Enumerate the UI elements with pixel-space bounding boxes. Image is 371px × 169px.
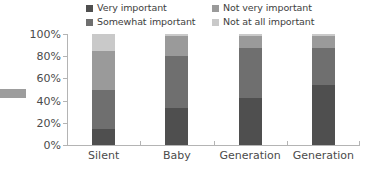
y-tick-label: 0% (44, 139, 61, 152)
stacked-bar (239, 34, 262, 145)
legend-swatch-not-very-important (212, 5, 219, 12)
chart-plot-area: 100%80%60%40%20%0% SilentBabyGenerationG… (67, 34, 360, 146)
bar-segment (92, 34, 115, 51)
y-tick-mark (63, 78, 67, 79)
x-axis-separator (287, 141, 288, 146)
x-axis-separator (140, 141, 141, 146)
bar-segment (312, 85, 335, 145)
y-tick-label: 20% (37, 116, 61, 129)
bar-segment (239, 98, 262, 145)
legend-item-not-at-all-important: Not at all important (212, 17, 362, 27)
bar-segment (165, 56, 188, 108)
x-axis-label: Generation (293, 149, 354, 162)
y-tick-mark (63, 145, 67, 146)
chart-legend: Very important Not very important Somewh… (86, 1, 362, 30)
legend-label-not-very-important: Not very important (223, 3, 312, 13)
legend-swatch-not-at-all-important (212, 19, 219, 26)
x-axis-label: Silent (88, 149, 119, 162)
bar-segment (92, 51, 115, 90)
bar-segment (165, 108, 188, 145)
legend-label-not-at-all-important: Not at all important (223, 17, 314, 27)
y-tick-label: 80% (37, 50, 61, 63)
bar-segment (239, 36, 262, 48)
legend-label-somewhat-important: Somewhat important (97, 17, 195, 27)
y-tick-mark (63, 56, 67, 57)
bar-segment (92, 90, 115, 130)
bar-segment (165, 36, 188, 56)
bar-segment (92, 129, 115, 145)
stacked-bar (165, 34, 188, 145)
legend-label-very-important: Very important (97, 3, 167, 13)
y-tick-label: 60% (37, 72, 61, 85)
decorative-edge-mark (0, 89, 26, 98)
y-tick-mark (63, 101, 67, 102)
y-tick-label: 100% (30, 28, 61, 41)
bar-segment (312, 48, 335, 85)
legend-item-not-very-important: Not very important (212, 3, 362, 13)
legend-item-very-important: Very important (86, 3, 212, 13)
legend-swatch-somewhat-important (86, 19, 93, 26)
legend-swatch-very-important (86, 5, 93, 12)
y-tick-mark (63, 123, 67, 124)
bar-segment (312, 36, 335, 48)
legend-item-somewhat-important: Somewhat important (86, 17, 212, 27)
bar-segment (239, 48, 262, 98)
y-tick-mark (63, 34, 67, 35)
y-axis-line (67, 34, 68, 146)
x-axis-separator (359, 141, 360, 146)
y-tick-label: 40% (37, 94, 61, 107)
stacked-bar (312, 34, 335, 145)
x-axis-label: Generation (219, 149, 280, 162)
stacked-bar (92, 34, 115, 145)
x-axis-separator (214, 141, 215, 146)
x-axis-label: Baby (163, 149, 191, 162)
